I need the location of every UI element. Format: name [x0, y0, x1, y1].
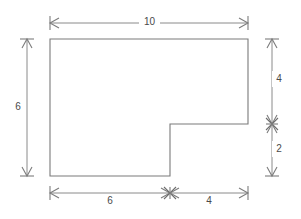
dimensioned-l-shape-diagram: 10 6 4 [0, 0, 301, 219]
left-height-dimension: 6 [12, 39, 34, 176]
right-upper-dimension-label: 4 [276, 73, 282, 84]
bottom-left-width-dimension: 6 [50, 186, 170, 206]
top-dimension-label: 10 [144, 16, 156, 27]
right-lower-height-dimension: 2 [265, 124, 286, 176]
diagram-canvas: 10 6 4 [0, 0, 301, 219]
left-dimension-label: 6 [15, 101, 21, 112]
bottom-right-dimension-label: 4 [206, 195, 212, 206]
right-lower-dimension-label: 2 [276, 143, 282, 154]
l-shape-polygon [50, 39, 248, 176]
top-width-dimension: 10 [50, 14, 248, 30]
right-upper-height-dimension: 4 [265, 39, 286, 124]
bottom-left-dimension-label: 6 [107, 195, 113, 206]
bottom-right-width-dimension: 4 [170, 186, 248, 206]
